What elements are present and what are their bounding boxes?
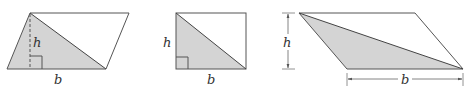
b-label: b — [207, 72, 215, 87]
h-label: h — [283, 35, 291, 50]
panel-rectangle: h b — [163, 13, 246, 87]
triangle-area-diagram: h b h b h b — [0, 0, 473, 92]
h-label: h — [33, 35, 41, 50]
panel-parallelogram-2: h b — [282, 13, 463, 87]
panel-parallelogram-1: h b — [7, 13, 129, 87]
h-label: h — [163, 35, 171, 50]
b-label: b — [401, 72, 409, 87]
b-label: b — [54, 72, 62, 87]
shaded-triangle — [7, 13, 106, 69]
